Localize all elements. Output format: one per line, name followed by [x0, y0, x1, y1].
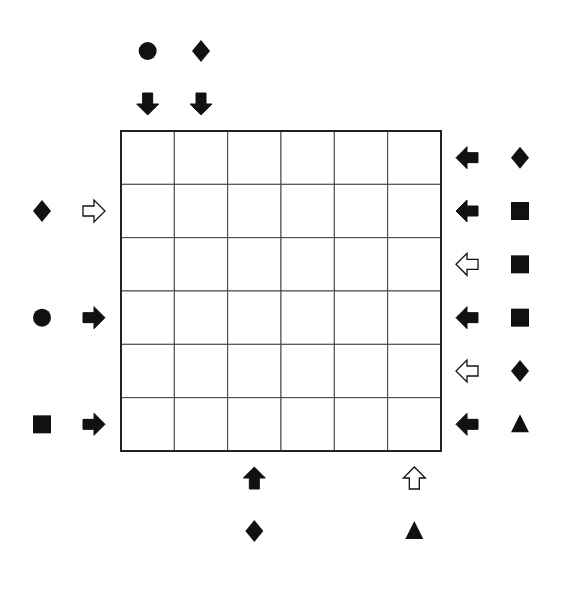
- grid-cell-r2-c4[interactable]: [334, 238, 387, 291]
- clue-top-arrow-down-filled-icon: [137, 93, 159, 115]
- clue-left-circle-icon: [33, 309, 51, 327]
- clue-bottom-diamond-icon: [245, 520, 263, 542]
- clue-left-arrow-right-filled-icon: [83, 413, 105, 435]
- clue-right-diamond-icon: [511, 147, 529, 169]
- clue-right-row-2: [456, 253, 529, 275]
- clue-left-arrow-right-filled-icon: [83, 307, 105, 329]
- clue-right-row-5: [456, 413, 529, 435]
- grid-cell-r0-c2[interactable]: [228, 131, 281, 184]
- clue-right-arrow-left-filled-icon: [456, 413, 478, 435]
- grid-cell-r2-c0[interactable]: [121, 238, 174, 291]
- clue-top-diamond-icon: [192, 40, 210, 62]
- grid-cell-r3-c2[interactable]: [228, 291, 281, 344]
- clue-bottom-triangle-icon: [405, 521, 423, 539]
- grid-cells: [121, 131, 441, 451]
- grid-cell-r4-c1[interactable]: [174, 344, 227, 397]
- grid-cell-r4-c2[interactable]: [228, 344, 281, 397]
- grid-cell-r3-c3[interactable]: [281, 291, 334, 344]
- clue-right-arrow-left-outline-icon: [456, 360, 478, 382]
- grid-cell-r4-c4[interactable]: [334, 344, 387, 397]
- grid-cell-r5-c3[interactable]: [281, 398, 334, 451]
- clue-right-square-icon: [511, 202, 529, 220]
- clue-right-row-0: [456, 147, 529, 169]
- clue-right-arrow-left-filled-icon: [456, 147, 478, 169]
- grid-cell-r1-c0[interactable]: [121, 184, 174, 237]
- clue-left-row-5: [33, 413, 105, 435]
- puzzle-board: [0, 0, 562, 600]
- clue-bottom-col-2: [243, 467, 265, 542]
- grid-cell-r5-c2[interactable]: [228, 398, 281, 451]
- grid-cell-r5-c5[interactable]: [388, 398, 441, 451]
- grid-cell-r0-c5[interactable]: [388, 131, 441, 184]
- clue-right-square-icon: [511, 309, 529, 327]
- grid-cell-r3-c1[interactable]: [174, 291, 227, 344]
- clue-top-circle-icon: [139, 42, 157, 60]
- clue-right-arrow-left-filled-icon: [456, 200, 478, 222]
- clue-right-row-4: [456, 360, 529, 382]
- clue-bottom-arrow-up-outline-icon: [403, 467, 425, 489]
- grid-cell-r3-c0[interactable]: [121, 291, 174, 344]
- grid-cell-r0-c3[interactable]: [281, 131, 334, 184]
- clue-bottom-col-5: [403, 467, 425, 539]
- clue-left-diamond-icon: [33, 200, 51, 222]
- clue-top-col-1: [190, 40, 212, 115]
- clue-right-arrow-left-filled-icon: [456, 307, 478, 329]
- grid-cell-r2-c2[interactable]: [228, 238, 281, 291]
- clue-right-diamond-icon: [511, 360, 529, 382]
- clue-left-row-1: [33, 200, 105, 222]
- grid-cell-r1-c3[interactable]: [281, 184, 334, 237]
- grid-cell-r4-c5[interactable]: [388, 344, 441, 397]
- grid-cell-r0-c4[interactable]: [334, 131, 387, 184]
- grid-cell-r1-c2[interactable]: [228, 184, 281, 237]
- grid-cell-r1-c5[interactable]: [388, 184, 441, 237]
- grid-cell-r1-c4[interactable]: [334, 184, 387, 237]
- grid-cell-r5-c4[interactable]: [334, 398, 387, 451]
- clue-right-row-1: [456, 200, 529, 222]
- grid-cell-r4-c0[interactable]: [121, 344, 174, 397]
- clue-right-row-3: [456, 307, 529, 329]
- grid-cell-r1-c1[interactable]: [174, 184, 227, 237]
- grid-cell-r2-c5[interactable]: [388, 238, 441, 291]
- grid-cell-r0-c0[interactable]: [121, 131, 174, 184]
- grid-cell-r5-c0[interactable]: [121, 398, 174, 451]
- clue-top-col-0: [137, 42, 159, 115]
- grid-cell-r3-c4[interactable]: [334, 291, 387, 344]
- clue-left-arrow-right-outline-icon: [83, 200, 105, 222]
- grid-cell-r0-c1[interactable]: [174, 131, 227, 184]
- grid-cell-r2-c1[interactable]: [174, 238, 227, 291]
- clue-right-arrow-left-outline-icon: [456, 253, 478, 275]
- clue-right-square-icon: [511, 255, 529, 273]
- clue-top-arrow-down-filled-icon: [190, 93, 212, 115]
- grid-cell-r5-c1[interactable]: [174, 398, 227, 451]
- grid-cell-r4-c3[interactable]: [281, 344, 334, 397]
- grid-cell-r2-c3[interactable]: [281, 238, 334, 291]
- clue-bottom-arrow-up-filled-icon: [243, 467, 265, 489]
- clue-left-square-icon: [33, 415, 51, 433]
- clue-right-triangle-icon: [511, 414, 529, 432]
- grid-cell-r3-c5[interactable]: [388, 291, 441, 344]
- clue-left-row-3: [33, 307, 105, 329]
